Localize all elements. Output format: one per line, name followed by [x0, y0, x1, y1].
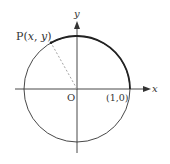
origin-label: O	[67, 92, 75, 103]
radius-op-dashed	[51, 43, 77, 89]
point-p-label: P(x, y)	[16, 30, 51, 43]
highlighted-arc	[51, 36, 130, 89]
unit-circle-diagram: P(x, y) O (1,0) x y	[0, 0, 170, 164]
unit-point-label: (1,0)	[106, 92, 129, 103]
y-axis-arrow-icon	[74, 21, 80, 29]
y-axis-label: y	[73, 8, 80, 19]
x-axis-arrow-icon	[143, 86, 151, 92]
x-axis-label: x	[152, 83, 158, 94]
